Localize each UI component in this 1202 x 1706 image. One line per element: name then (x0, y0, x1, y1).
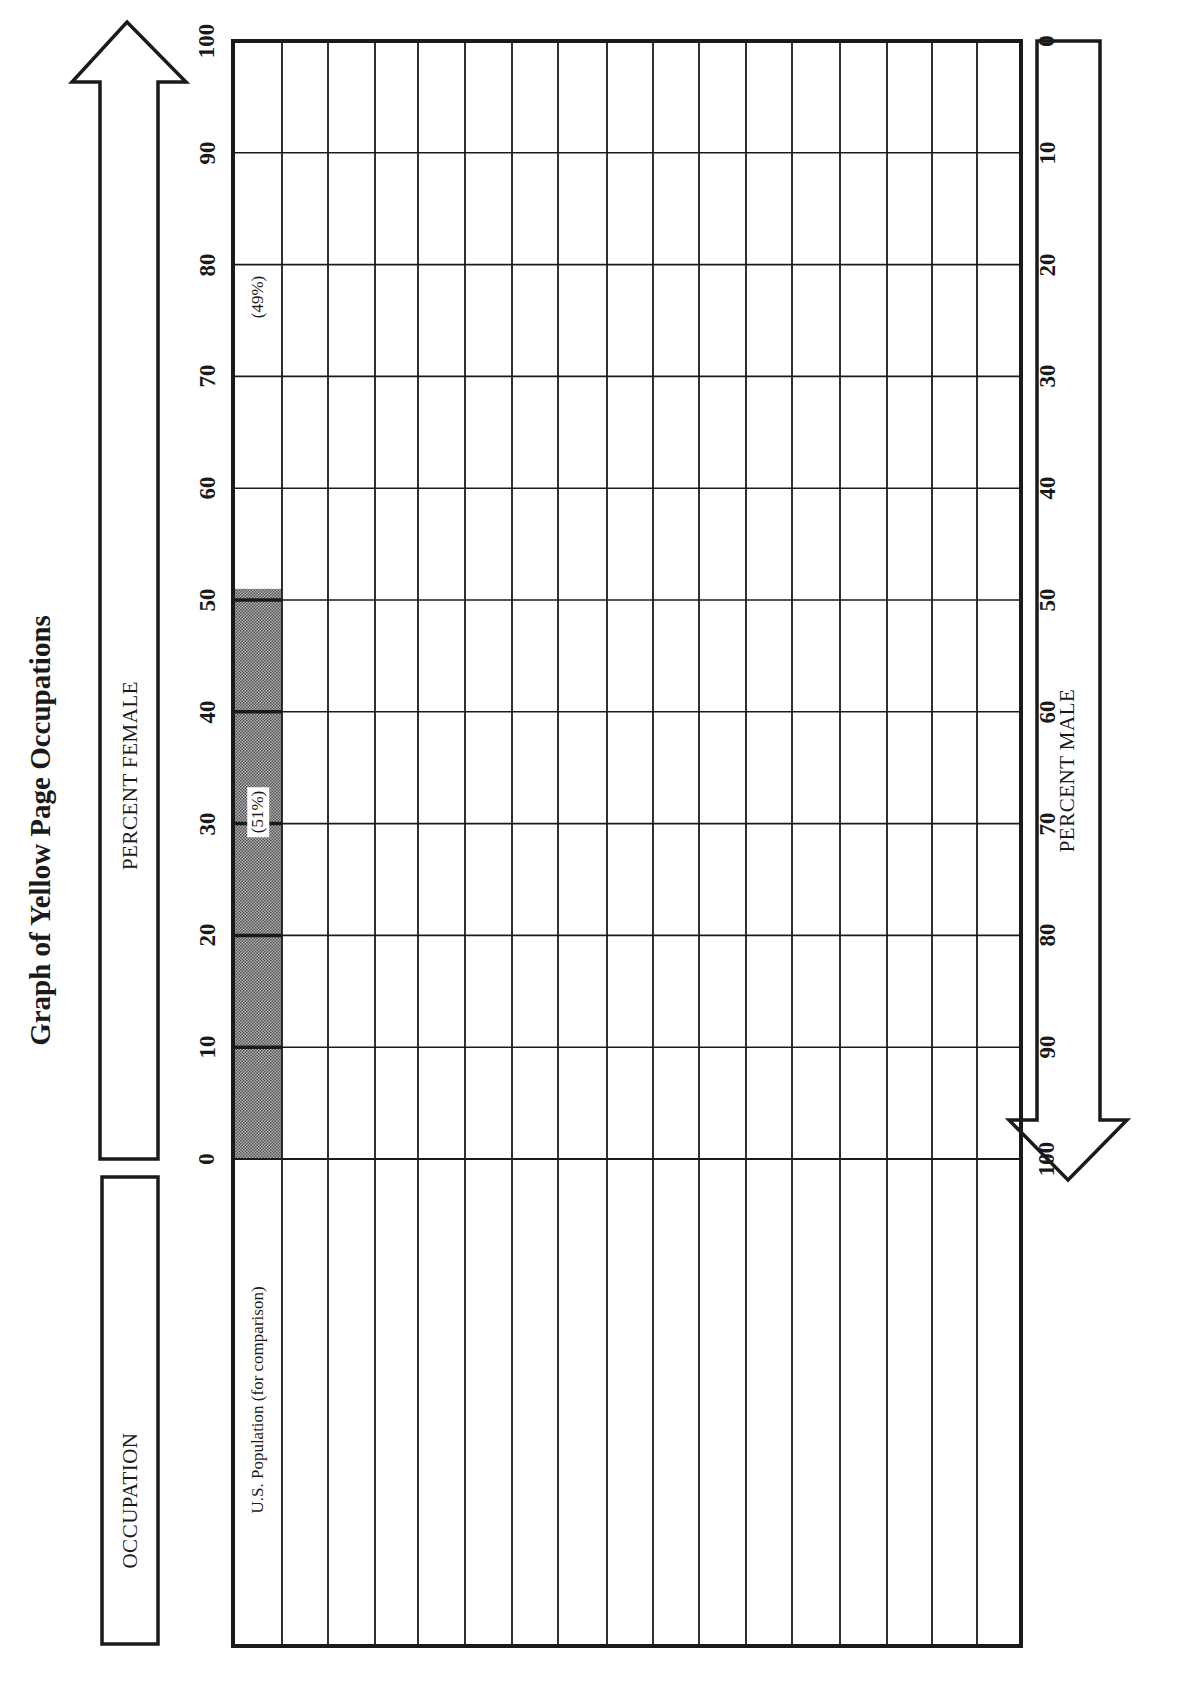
female-tick-label: 0 (194, 1153, 220, 1165)
female-tick-label: 20 (194, 924, 220, 947)
male-tick-label: 40 (1034, 477, 1060, 500)
female-tick-label: 30 (194, 812, 220, 835)
female-tick-label: 40 (194, 700, 220, 723)
occupation-box (102, 1177, 158, 1644)
male-tick-label: 70 (1034, 812, 1060, 835)
down-arrow-icon (1009, 41, 1127, 1180)
up-arrow-icon (72, 22, 186, 1159)
male-tick-label: 100 (1034, 1142, 1060, 1177)
bar-layer (233, 589, 282, 1159)
female-tick-label: 90 (194, 141, 220, 164)
female-tick-label: 60 (194, 477, 220, 500)
male-tick-label: 30 (1034, 365, 1060, 388)
grid-layer (231, 41, 1023, 1646)
male-tick-label: 60 (1034, 700, 1060, 723)
female-tick-label: 100 (194, 24, 220, 59)
male-tick-label: 90 (1034, 1036, 1060, 1059)
female-tick-label: 50 (194, 589, 220, 612)
male-tick-label: 50 (1034, 589, 1060, 612)
female-percent-label: (51%) (247, 787, 269, 837)
percent-female-label: PERCENT FEMALE (118, 680, 143, 869)
male-tick-label: 0 (1034, 35, 1060, 47)
chart-canvas (0, 0, 1202, 1706)
male-tick-label: 10 (1034, 141, 1060, 164)
female-tick-label: 70 (194, 365, 220, 388)
chart-title: Graph of Yellow Page Occupations (23, 615, 56, 1046)
occupation-row-label: U.S. Population (for comparison) (248, 1286, 268, 1513)
female-tick-label: 10 (194, 1036, 220, 1059)
male-tick-label: 20 (1034, 253, 1060, 276)
female-bar (233, 589, 282, 1159)
female-tick-label: 80 (194, 253, 220, 276)
male-tick-label: 80 (1034, 924, 1060, 947)
male-percent-label: (49%) (248, 276, 268, 318)
occupation-header: OCCUPATION (118, 1432, 143, 1568)
